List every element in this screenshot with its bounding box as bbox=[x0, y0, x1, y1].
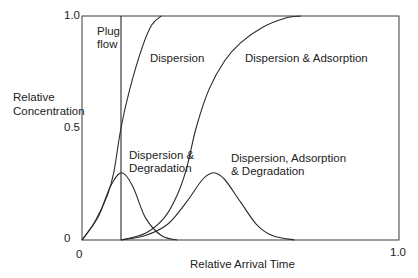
annotation-plug-flow-line2: flow bbox=[97, 38, 120, 51]
y-axis-title-line2: Concentration bbox=[13, 104, 85, 118]
y-tick-05: 0.5 bbox=[64, 121, 80, 133]
annotation-dispersion-degradation: Dispersion & Degradation bbox=[129, 149, 194, 175]
plot-frame bbox=[82, 16, 399, 240]
curve-dispersion bbox=[82, 16, 161, 240]
annotation-dad-line1: Dispersion, Adsorption bbox=[231, 152, 346, 165]
annotation-dispersion: Dispersion bbox=[150, 52, 204, 65]
x-tick-0: 0 bbox=[76, 248, 82, 260]
annotation-plug-flow-line1: Plug bbox=[97, 25, 120, 38]
annotation-dispersion-adsorption: Dispersion & Adsorption bbox=[245, 52, 368, 65]
y-tick-0: 0 bbox=[64, 232, 70, 244]
y-tick-1: 1.0 bbox=[64, 9, 80, 21]
annotation-dd-line2: Degradation bbox=[129, 162, 194, 175]
x-tick-1: 1.0 bbox=[390, 246, 406, 258]
annotation-dispersion-adsorption-degradation: Dispersion, Adsorption & Degradation bbox=[231, 152, 346, 178]
curve-dispersion-adsorption-degradation bbox=[121, 173, 294, 240]
breakthrough-chart bbox=[0, 0, 418, 278]
annotation-dd-line1: Dispersion & bbox=[129, 149, 194, 162]
x-axis-title: Relative Arrival Time bbox=[190, 258, 295, 271]
annotation-dad-line2: & Degradation bbox=[231, 165, 346, 178]
curve-dispersion-degradation bbox=[82, 173, 177, 240]
y-axis-title: Relative Concentration bbox=[13, 90, 85, 118]
curve-dispersion-adsorption bbox=[121, 16, 301, 240]
y-axis-title-line1: Relative bbox=[13, 90, 85, 104]
annotation-plug-flow: Plug flow bbox=[97, 25, 120, 51]
